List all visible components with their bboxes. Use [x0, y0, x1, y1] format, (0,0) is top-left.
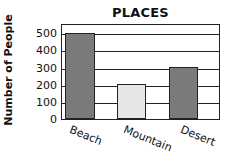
x-label-mountain: Mountain — [122, 124, 174, 154]
y-axis-label: Number of People — [3, 14, 15, 126]
x-label-desert: Desert — [179, 124, 217, 149]
chart-title: PLACES — [61, 6, 220, 20]
bar-desert — [169, 67, 198, 119]
bar-beach — [65, 33, 95, 119]
y-tick-400: 400 — [17, 45, 57, 56]
plot-area — [61, 24, 220, 120]
y-tick-0: 0 — [17, 114, 57, 125]
y-tick-100: 100 — [17, 97, 57, 108]
y-tick-300: 300 — [17, 63, 57, 74]
y-tick-500: 500 — [17, 28, 57, 39]
x-label-beach: Beach — [68, 124, 104, 148]
y-tick-200: 200 — [17, 80, 57, 91]
bar-mountain — [117, 84, 146, 119]
